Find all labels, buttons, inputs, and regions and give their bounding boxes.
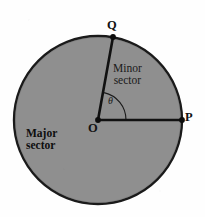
minor-sector-label-line2: sector	[113, 75, 142, 87]
point-label-p: P	[185, 111, 193, 124]
point-label-q: Q	[107, 19, 117, 32]
angle-theta-label: θ	[108, 96, 113, 106]
circle-sector-diagram: Q P O θ Minor sector Major sector	[0, 0, 205, 217]
diagram-canvas	[0, 0, 205, 217]
point-label-o: O	[88, 122, 98, 135]
major-sector-label-line1: Major	[26, 128, 57, 140]
minor-sector-label-line1: Minor	[113, 63, 142, 75]
minor-sector-label: Minor sector	[113, 63, 142, 86]
major-sector-label: Major sector	[26, 128, 57, 151]
major-sector-label-line2: sector	[26, 140, 57, 152]
point-dot-q	[110, 34, 116, 40]
